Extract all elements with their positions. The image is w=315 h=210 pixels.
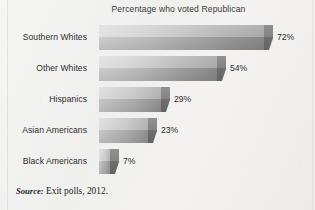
category-label-other-whites: Other Whites: [0, 53, 93, 83]
bar-asian-americans[interactable]: [99, 118, 157, 143]
bar-black-americans[interactable]: [99, 149, 119, 174]
bar-southern-whites[interactable]: [99, 25, 273, 50]
category-label-hispanics: Hispanics: [0, 84, 93, 114]
bar-end-cap: [110, 149, 119, 174]
bar-row: Hispanics 29%: [0, 84, 315, 114]
bar-body: [99, 118, 149, 143]
bar-hispanics[interactable]: [99, 87, 170, 112]
chart-figure: Percentage who voted Republican Southern…: [0, 0, 315, 210]
value-label-hispanics: 29%: [174, 84, 191, 114]
bar-body: [99, 25, 265, 50]
category-label-asian-americans: Asian Americans: [0, 115, 93, 145]
bar-row: Southern Whites 72%: [0, 22, 315, 52]
value-label-asian-americans: 23%: [161, 115, 178, 145]
category-label-southern-whites: Southern Whites: [0, 22, 93, 52]
bar-body: [99, 149, 111, 174]
value-label-southern-whites: 72%: [277, 22, 294, 52]
bar-row: Other Whites 54%: [0, 53, 315, 83]
bar-end-cap: [161, 87, 170, 112]
chart-title: Percentage who voted Republican: [0, 4, 315, 14]
category-label-black-americans: Black Americans: [0, 146, 93, 176]
source-note: Source: Exit polls, 2012.: [16, 186, 108, 196]
source-label: Source:: [16, 186, 44, 196]
bar-end-cap: [264, 25, 273, 50]
bar-row: Asian Americans 23%: [0, 115, 315, 145]
bar-body: [99, 56, 218, 81]
plot-area: Southern Whites 72% Other Whites 54% His…: [0, 22, 315, 174]
source-text: Exit polls, 2012.: [46, 186, 108, 196]
bar-body: [99, 87, 162, 112]
bar-other-whites[interactable]: [99, 56, 226, 81]
bar-row: Black Americans 7%: [0, 146, 315, 176]
bar-end-cap: [148, 118, 157, 143]
value-label-other-whites: 54%: [230, 53, 247, 83]
bar-end-cap: [217, 56, 226, 81]
value-label-black-americans: 7%: [123, 146, 135, 176]
